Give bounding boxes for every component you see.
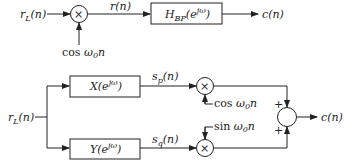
label-sin: sin ω0n [214,120,255,134]
label-rl-bottom: rL(n) [8,111,34,126]
label-sq: sq(n) [152,133,178,148]
label-carrier-top: cos ω0n [62,46,105,60]
multiply-symbol: × [74,8,83,21]
svg-text:×: × [200,142,209,155]
label-r: r(n) [110,0,131,13]
svg-text:+: + [274,124,283,137]
label-hbp: HBP(ejω) [164,6,210,23]
label-sp: sp(n) [152,70,178,85]
label-c-top: c(n) [262,8,284,21]
svg-text:×: × [200,80,209,93]
label-c-bottom: c(n) [321,111,343,124]
svg-text:+: + [274,98,283,111]
label-x: X(ejω) [89,78,122,93]
block-diagram: rL(n) × cos ω0n r(n) HBP(ejω) c(n) rL(n)… [0,0,356,160]
label-y: Y(ejω) [90,141,121,156]
label-rl-top: rL(n) [20,8,46,23]
label-cos: cos ω0n [214,97,257,111]
